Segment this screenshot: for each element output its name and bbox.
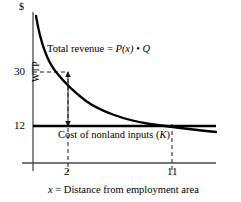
cost-label-suffix: ): [167, 129, 171, 140]
y-tick-label-30: 30: [14, 66, 25, 77]
total-revenue-label-prefix: Total revenue =: [47, 43, 115, 54]
x-tick-label-2: 2: [64, 166, 70, 177]
cost-label-prefix: Cost of nonland inputs (: [58, 129, 160, 140]
total-revenue-label-q: Q: [142, 43, 150, 54]
wtp-arrow-head-top: [65, 71, 71, 77]
y-tick-label-12: 12: [14, 120, 25, 131]
x-axis-caption: x = Distance from employment area: [48, 185, 199, 196]
x-tick-label-11: 11: [167, 166, 178, 177]
total-revenue-curve: [36, 16, 216, 132]
caption-text: = Distance from employment area: [53, 184, 199, 195]
plot-canvas: [0, 0, 241, 202]
cost-of-nonland-inputs-label: Cost of nonland inputs (K): [58, 130, 170, 141]
total-revenue-label: Total revenue = P(x) • Q: [47, 44, 150, 55]
y-axis-unit-label: $: [19, 2, 24, 12]
total-revenue-label-x: (x): [122, 43, 134, 54]
cost-label-k: K: [160, 129, 167, 140]
revenue-distance-figure: $ 30 12 2 11 Total revenue = P(x) • Q Co…: [0, 0, 241, 202]
wtp-label: WTP: [32, 61, 42, 82]
